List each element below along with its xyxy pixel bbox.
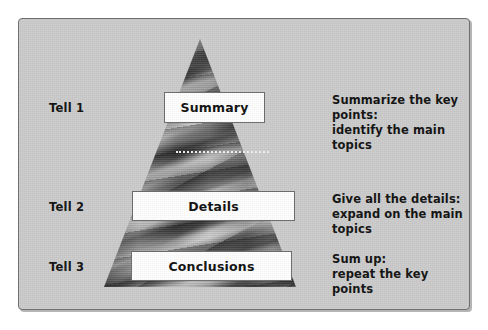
- diagram-panel: Tell 1 Tell 2 Tell 3 Summary Details Con…: [18, 18, 470, 310]
- pyramid-graphic: [104, 39, 296, 287]
- tell-label-1: Tell 1: [49, 101, 84, 115]
- pyramid-grain: [104, 39, 296, 287]
- figure-canvas: Tell 1 Tell 2 Tell 3 Summary Details Con…: [0, 0, 488, 330]
- note-text-3: Sum up: repeat the key points: [332, 252, 469, 297]
- note-text-1: Summarize the key points: identify the m…: [332, 93, 469, 153]
- tell-label-3: Tell 3: [49, 260, 84, 274]
- dotted-divider-line: [176, 151, 269, 153]
- note-text-2: Give all the details: expand on the main…: [332, 192, 469, 237]
- pyramid-box-conclusions: Conclusions: [131, 251, 292, 281]
- tell-label-2: Tell 2: [49, 200, 84, 214]
- pyramid-shape: [104, 39, 296, 287]
- pyramid-box-details: Details: [132, 191, 295, 221]
- pyramid-box-summary: Summary: [164, 92, 265, 123]
